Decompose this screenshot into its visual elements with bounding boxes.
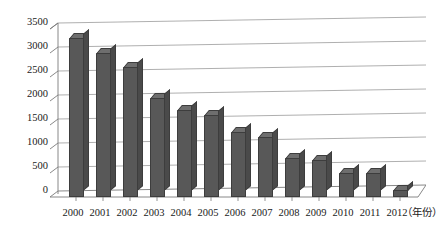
y-tick-label: 500 bbox=[32, 161, 48, 171]
y-tick-label: 2000 bbox=[27, 89, 48, 99]
x-axis-labels: 2000 2001 2002 2003 2004 2005 2006 2007 … bbox=[50, 207, 436, 229]
y-tick-label: 0 bbox=[43, 185, 48, 195]
x-tick-label-2005: 2005 bbox=[193, 207, 223, 219]
plot-area bbox=[50, 10, 426, 205]
bar-2011 bbox=[366, 173, 381, 197]
x-tick-label-2007: 2007 bbox=[247, 207, 277, 219]
x-tick-label-2008: 2008 bbox=[274, 207, 304, 219]
bar-2009 bbox=[312, 160, 327, 197]
y-tick-label: 3000 bbox=[27, 41, 48, 51]
bar-side-face bbox=[245, 123, 251, 191]
x-tick-label-2003: 2003 bbox=[139, 207, 169, 219]
bar-2001 bbox=[96, 53, 111, 197]
bar-2000 bbox=[69, 38, 84, 197]
bar-2012 bbox=[393, 190, 408, 197]
bar-2002 bbox=[123, 67, 138, 197]
y-tick-label: 3500 bbox=[27, 17, 48, 27]
x-tick-label-2004: 2004 bbox=[166, 207, 196, 219]
bar-side-face bbox=[272, 128, 278, 191]
x-tick-label-2002: 2002 bbox=[112, 207, 142, 219]
bar-2004 bbox=[177, 110, 192, 197]
bar-2006 bbox=[231, 132, 246, 197]
bar-side-face bbox=[110, 44, 116, 191]
bar-2010 bbox=[339, 173, 354, 197]
x-tick-label-2001: 2001 bbox=[85, 207, 115, 219]
bar-side-face bbox=[83, 29, 89, 191]
x-tick-label-2010: 2010 bbox=[328, 207, 358, 219]
bar-side-face bbox=[299, 149, 305, 191]
bar-2007 bbox=[258, 137, 273, 197]
y-tick-label: 1000 bbox=[27, 137, 48, 147]
bar-side-face bbox=[407, 180, 413, 190]
bar-side-face bbox=[380, 164, 386, 191]
x-tick-label-2011: 2011 bbox=[355, 207, 385, 219]
bar-side-face bbox=[137, 58, 143, 191]
bar-side-face bbox=[326, 151, 332, 191]
x-tick-label-2006: 2006 bbox=[220, 207, 250, 219]
bar-side-face bbox=[218, 106, 224, 191]
x-axis-title: （年份） bbox=[402, 207, 436, 219]
y-tick-label: 1500 bbox=[27, 113, 48, 123]
bar-2008 bbox=[285, 158, 300, 197]
bar-side-face bbox=[191, 101, 197, 191]
bar-side-face bbox=[164, 89, 170, 191]
bar-2003 bbox=[150, 98, 165, 197]
bar-chart: 3500 3000 2500 2000 1500 1000 500 0 bbox=[0, 0, 436, 233]
x-tick-label-2000: 2000 bbox=[58, 207, 88, 219]
bar-series bbox=[50, 10, 426, 205]
x-tick-label-2009: 2009 bbox=[301, 207, 331, 219]
bar-2005 bbox=[204, 115, 219, 197]
y-tick-label: 2500 bbox=[27, 65, 48, 75]
bar-side-face bbox=[353, 164, 359, 191]
y-axis-labels: 3500 3000 2500 2000 1500 1000 500 0 bbox=[2, 0, 48, 233]
